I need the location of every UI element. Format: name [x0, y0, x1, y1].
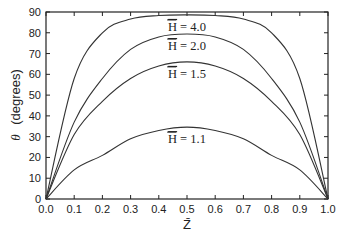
- curve-label: H= 1.5: [168, 67, 206, 81]
- x-tick-label: 0.8: [264, 203, 279, 215]
- y-tick-label: 40: [29, 110, 41, 122]
- x-tick-label: 0.3: [123, 203, 138, 215]
- y-tick-label: 10: [29, 172, 41, 184]
- curve-label-symbol: H: [168, 39, 177, 53]
- y-tick-label: 80: [29, 27, 41, 39]
- curve-label-symbol: H: [168, 67, 177, 81]
- y-tick-label: 20: [29, 151, 41, 163]
- curve-label-value: = 1.5: [180, 67, 206, 81]
- curve-label: H= 1.1: [168, 132, 206, 146]
- y-tick-label: 70: [29, 48, 41, 60]
- x-tick-labels: 0.00.10.20.30.40.50.60.70.80.91.0: [38, 203, 335, 215]
- curve-label-value: = 4.0: [180, 20, 206, 34]
- curve-label-value: = 2.0: [180, 39, 206, 53]
- y-tick-label: 0: [35, 193, 41, 205]
- curve-line: [46, 34, 328, 199]
- x-axis-title: Z̄: [183, 217, 191, 232]
- curve-label-symbol: H: [168, 20, 177, 34]
- x-tick-label: 1.0: [320, 203, 335, 215]
- x-tick-label: 0.1: [67, 203, 82, 215]
- y-axis-title: θ (degrees): [8, 69, 23, 141]
- y-tick-label: 30: [29, 131, 41, 143]
- curve-label: H= 2.0: [168, 39, 206, 53]
- y-axis-symbol: θ: [8, 134, 23, 141]
- x-tick-label: 0.5: [179, 203, 194, 215]
- x-tick-label: 0.2: [95, 203, 110, 215]
- curve-label-symbol: H: [168, 132, 177, 146]
- y-tick-label: 60: [29, 68, 41, 80]
- y-tick-label: 90: [29, 6, 41, 18]
- chart: 0.00.10.20.30.40.50.60.70.80.91.0 010203…: [0, 0, 342, 235]
- x-tick-label: 0.6: [208, 203, 223, 215]
- x-tick-label: 0.7: [236, 203, 251, 215]
- x-tick-label: 0.4: [151, 203, 166, 215]
- y-tick-labels: 0102030405060708090: [29, 6, 41, 205]
- y-axis-unit: (degrees): [8, 69, 23, 125]
- svg-text:θ (degrees): θ (degrees): [8, 69, 23, 141]
- x-tick-label: 0.9: [292, 203, 307, 215]
- curve-label-value: = 1.1: [180, 132, 206, 146]
- curve-line: [46, 62, 328, 199]
- curve-label: H= 4.0: [168, 20, 206, 34]
- y-tick-label: 50: [29, 89, 41, 101]
